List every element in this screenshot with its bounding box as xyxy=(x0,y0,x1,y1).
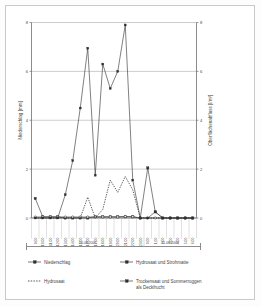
data-point-hydrosaat-und-strohmatte-13 xyxy=(132,216,134,218)
legend-label-3-line2: als Deckfrucht xyxy=(136,285,165,290)
series-trockensaat-und-sommerroggen-als-deckfrucht xyxy=(34,24,194,219)
y-right-tick-labels: 02468 xyxy=(197,20,204,221)
y-left-tick-label-6: 6 xyxy=(26,69,29,74)
legend-swatch-marker-3 xyxy=(125,280,128,283)
data-point-trockensaat-und-sommerroggen-als-deckfrucht-7 xyxy=(87,47,89,49)
y-left-tick-label-8: 8 xyxy=(26,20,29,25)
x-tick-label-15: 0:00 xyxy=(146,237,150,244)
legend-label-0: Niederschlag xyxy=(44,260,71,265)
data-point-trockensaat-und-sommerroggen-als-deckfrucht-15 xyxy=(147,217,149,219)
x-tick-label-4: 13:00 xyxy=(64,237,68,246)
y-right-tick-label-4: 4 xyxy=(200,118,203,123)
chart-legend: NiederschlagHydrosaat und StrohmatteHydr… xyxy=(28,260,202,290)
series-line-hydrosaat xyxy=(35,176,193,218)
x-tick-label-5: 14:00 xyxy=(71,237,75,246)
date-group-label-1: 11.08.2001 xyxy=(161,241,179,245)
data-point-trockensaat-und-sommerroggen-als-deckfrucht-13 xyxy=(132,179,134,181)
data-point-hydrosaat-und-strohmatte-10 xyxy=(109,216,111,218)
data-point-niederschlag-0 xyxy=(34,197,36,199)
data-point-niederschlag-15 xyxy=(147,167,149,169)
legend-label-2: Hydrosaat xyxy=(44,279,65,284)
data-point-trockensaat-und-sommerroggen-als-deckfrucht-21 xyxy=(192,217,194,219)
legend-swatch-marker-0 xyxy=(33,261,36,264)
y-left-axis-title: Niederschlag [mm] xyxy=(18,101,23,139)
series-hydrosaat xyxy=(35,176,193,218)
chart-canvas: 02468 02468 9:0010:0011:0012:0013:0014:0… xyxy=(0,0,262,307)
data-point-trockensaat-und-sommerroggen-als-deckfrucht-3 xyxy=(57,217,59,219)
data-point-trockensaat-und-sommerroggen-als-deckfrucht-16 xyxy=(154,211,156,213)
data-point-trockensaat-und-sommerroggen-als-deckfrucht-20 xyxy=(184,217,186,219)
x-tick-label-1: 10:00 xyxy=(41,237,45,246)
data-point-trockensaat-und-sommerroggen-als-deckfrucht-9 xyxy=(102,63,104,65)
x-tick-label-0: 9:00 xyxy=(34,237,38,244)
data-point-trockensaat-und-sommerroggen-als-deckfrucht-12 xyxy=(124,24,126,26)
x-tick-label-12: 21:00 xyxy=(124,237,128,246)
x-tick-label-20: 5:00 xyxy=(184,237,188,244)
legend-swatch-marker-1 xyxy=(125,261,128,264)
data-point-trockensaat-und-sommerroggen-als-deckfrucht-6 xyxy=(79,107,81,109)
y-left-tick-labels: 02468 xyxy=(26,20,32,221)
series-line-trockensaat-und-sommerroggen-als-deckfrucht xyxy=(35,25,193,218)
data-point-trockensaat-und-sommerroggen-als-deckfrucht-5 xyxy=(72,160,74,162)
data-point-hydrosaat-und-strohmatte-11 xyxy=(117,216,119,218)
data-point-hydrosaat-und-strohmatte-7 xyxy=(87,216,89,218)
series-line-niederschlag xyxy=(35,168,193,218)
data-point-trockensaat-und-sommerroggen-als-deckfrucht-17 xyxy=(162,217,164,219)
axes xyxy=(27,23,201,251)
data-point-trockensaat-und-sommerroggen-als-deckfrucht-11 xyxy=(117,70,119,72)
legend-item-trockensaat-und-sommerroggen-als-deckfru[interactable]: Trockensaat und Sommerroggenals Deckfruc… xyxy=(120,279,202,290)
legend-item-hydrosaat[interactable]: Hydrosaat xyxy=(28,279,65,284)
x-tick-label-21: 6:00 xyxy=(191,237,195,244)
chart-svg: 02468 02468 9:0010:0011:0012:0013:0014:0… xyxy=(0,0,262,307)
data-point-trockensaat-und-sommerroggen-als-deckfrucht-10 xyxy=(109,87,111,89)
y-right-axis-title: Oberflächenabfluss [l/m²] xyxy=(208,95,213,146)
y-left-tick-label-0: 0 xyxy=(26,216,29,221)
y-right-tick-label-6: 6 xyxy=(200,69,203,74)
data-point-trockensaat-und-sommerroggen-als-deckfrucht-18 xyxy=(169,217,171,219)
x-tick-label-14: 23:00 xyxy=(139,237,143,246)
data-point-trockensaat-und-sommerroggen-als-deckfrucht-8 xyxy=(94,174,96,176)
data-point-trockensaat-und-sommerroggen-als-deckfrucht-14 xyxy=(139,217,141,219)
data-point-trockensaat-und-sommerroggen-als-deckfrucht-19 xyxy=(177,217,179,219)
legend-item-hydrosaat-und-strohmatte[interactable]: Hydrosaat und Strohmatte xyxy=(120,260,189,265)
gridlines xyxy=(32,23,197,219)
x-tick-label-16: 1:00 xyxy=(154,237,158,244)
x-tick-label-13: 22:00 xyxy=(131,237,135,246)
x-tick-label-9: 18:00 xyxy=(101,237,105,246)
y-right-tick-label-2: 2 xyxy=(200,167,203,172)
data-point-hydrosaat-und-strohmatte-12 xyxy=(124,215,126,217)
data-point-hydrosaat-und-strohmatte-9 xyxy=(102,216,104,218)
date-group-label-0: 10.08.2001 xyxy=(79,241,97,245)
y-right-tick-label-8: 8 xyxy=(200,20,203,25)
legend-label-3-line1: Trockensaat und Sommerroggen xyxy=(136,279,202,284)
x-tick-label-11: 20:00 xyxy=(116,237,120,246)
x-tick-label-3: 12:00 xyxy=(56,237,60,246)
x-tick-label-10: 19:00 xyxy=(109,237,113,246)
data-point-trockensaat-und-sommerroggen-als-deckfrucht-2 xyxy=(49,217,51,219)
y-left-tick-label-4: 4 xyxy=(26,118,29,123)
y-right-tick-label-0: 0 xyxy=(200,216,203,221)
legend-label-1: Hydrosaat und Strohmatte xyxy=(136,260,189,265)
legend-item-niederschlag[interactable]: Niederschlag xyxy=(28,260,71,265)
y-left-tick-label-2: 2 xyxy=(26,167,29,172)
figure-container: 02468 02468 9:0010:0011:0012:0013:0014:0… xyxy=(0,0,262,307)
data-point-trockensaat-und-sommerroggen-als-deckfrucht-0 xyxy=(34,217,36,219)
x-category-separators xyxy=(32,218,197,239)
data-point-trockensaat-und-sommerroggen-als-deckfrucht-4 xyxy=(64,194,66,196)
series-niederschlag xyxy=(34,167,194,219)
data-series xyxy=(34,24,194,219)
data-point-trockensaat-und-sommerroggen-als-deckfrucht-1 xyxy=(42,217,44,219)
x-tick-label-2: 11:00 xyxy=(49,237,53,246)
